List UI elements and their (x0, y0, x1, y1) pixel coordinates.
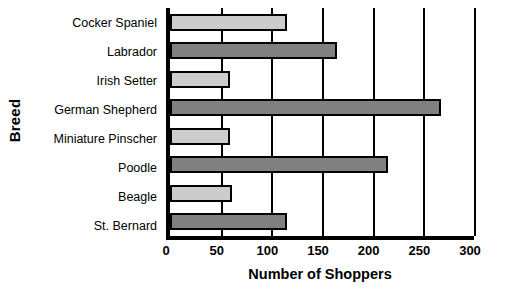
bar (170, 185, 232, 202)
bar (170, 14, 287, 31)
bar (170, 99, 441, 116)
bar-chart: Breed Cocker SpanielLabradorIrish Setter… (0, 0, 515, 298)
bar (170, 128, 230, 145)
x-tick-label: 0 (162, 243, 169, 258)
category-label: St. Bernard (28, 211, 162, 240)
category-axis-labels: Cocker SpanielLabradorIrish SetterGerman… (28, 8, 162, 240)
bar (170, 213, 287, 230)
category-label: Irish Setter (28, 66, 162, 95)
bar (170, 42, 337, 59)
bar (170, 71, 230, 88)
bar-row (170, 122, 474, 151)
bar-row (170, 37, 474, 66)
x-axis-title: Number of Shoppers (166, 266, 474, 282)
gridline (474, 8, 476, 236)
category-label: Labrador (28, 37, 162, 66)
x-tick-label: 150 (307, 243, 329, 258)
y-axis-title-label: Breed (7, 98, 24, 142)
bar-row (170, 208, 474, 237)
x-tick-label: 50 (209, 243, 223, 258)
x-axis-tick-labels: 050100150200250300 (166, 243, 474, 261)
bar-row (170, 94, 474, 123)
x-tick-label: 200 (358, 243, 380, 258)
category-label: Miniature Pinscher (28, 124, 162, 153)
bar-row (170, 65, 474, 94)
category-label: Cocker Spaniel (28, 8, 162, 37)
category-label: German Shepherd (28, 95, 162, 124)
y-axis-title: Breed (2, 0, 28, 240)
x-tick-label: 100 (256, 243, 278, 258)
plot-inner (170, 8, 474, 236)
category-label: Poodle (28, 153, 162, 182)
bar-row (170, 179, 474, 208)
bar (170, 156, 388, 173)
bar-row (170, 8, 474, 37)
plot-area (166, 8, 474, 240)
bars-layer (170, 8, 474, 236)
category-label: Beagle (28, 182, 162, 211)
x-tick-label: 250 (408, 243, 430, 258)
x-tick-label: 300 (459, 243, 481, 258)
bar-row (170, 151, 474, 180)
